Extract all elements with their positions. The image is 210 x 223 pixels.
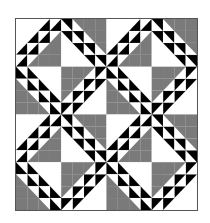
quilt-pattern-graphic [16, 19, 197, 210]
quilt-image [15, 18, 198, 211]
